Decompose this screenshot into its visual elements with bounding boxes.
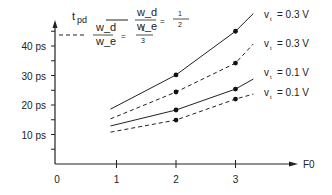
legend-solid-num: 1 bbox=[178, 10, 182, 17]
legend-dashed-num: 1 bbox=[141, 25, 145, 32]
legend-solid-equals: = bbox=[160, 17, 165, 26]
legend-dashed-we: w_e bbox=[95, 35, 116, 47]
x-tick-label: 0 bbox=[54, 174, 60, 185]
series-label-sub: t bbox=[270, 45, 272, 51]
x-tick-label: 3 bbox=[233, 174, 239, 185]
series-label-sub: t bbox=[270, 94, 272, 100]
series-label-text: v bbox=[264, 67, 269, 78]
series-label: vt= 0.3 V bbox=[264, 38, 309, 51]
data-point-marker bbox=[233, 87, 238, 92]
data-point-marker bbox=[233, 97, 238, 102]
y-ticks: 10 ps20 ps30 ps40 ps bbox=[22, 31, 55, 149]
y-tick-label: 10 ps bbox=[22, 130, 46, 141]
series-labels: vt= 0.3 Vvt= 0.3 Vvt= 0.1 Vvt= 0.1 V bbox=[264, 9, 309, 100]
x-tick-label: 1 bbox=[114, 174, 120, 185]
y-tick-label: 20 ps bbox=[22, 100, 46, 111]
legend-solid-den: 2 bbox=[178, 21, 182, 28]
series-label: vt= 0.1 V bbox=[264, 67, 309, 80]
series-label-text: v bbox=[264, 87, 269, 98]
series-label-sub: t bbox=[270, 16, 272, 22]
series-label-sub: t bbox=[270, 74, 272, 80]
series-label-value: = 0.3 V bbox=[277, 38, 309, 49]
data-point-marker bbox=[233, 61, 238, 66]
legend-dashed-equals: = bbox=[121, 32, 126, 41]
series-label: vt= 0.1 V bbox=[264, 87, 309, 100]
x-tick-label: 2 bbox=[173, 174, 179, 185]
data-point-marker bbox=[174, 118, 179, 123]
data-point-marker bbox=[174, 73, 179, 78]
data-point-marker bbox=[174, 90, 179, 95]
x-axis-label: F0 bbox=[303, 159, 315, 170]
series-label-text: v bbox=[264, 38, 269, 49]
y-axis-label-main: t bbox=[72, 10, 75, 22]
y-axis-label-sub: pd bbox=[77, 15, 87, 25]
series-label-text: v bbox=[264, 9, 269, 20]
y-axis-label: t pd bbox=[72, 10, 87, 25]
legend-dashed-wd: w_d bbox=[95, 21, 116, 33]
y-tick-label: 40 ps bbox=[22, 41, 46, 52]
series-line bbox=[111, 94, 254, 132]
x-axis-arrow-icon bbox=[289, 162, 298, 167]
series-label-value: = 0.1 V bbox=[277, 67, 309, 78]
series-label-value: = 0.3 V bbox=[277, 9, 309, 20]
data-point-marker bbox=[174, 108, 179, 113]
y-tick-label: 30 ps bbox=[22, 71, 46, 82]
legend-dashed-den: 3 bbox=[141, 37, 145, 44]
y-axis-arrow-icon bbox=[53, 20, 58, 28]
legend-solid: w_d w_e = 1 2 bbox=[106, 6, 189, 32]
series-label: vt= 0.3 V bbox=[264, 9, 309, 22]
series-label-value: = 0.1 V bbox=[277, 87, 309, 98]
series-line bbox=[111, 14, 254, 110]
legend-solid-we: w_e bbox=[136, 20, 157, 32]
data-point-marker bbox=[233, 29, 238, 34]
series-line bbox=[111, 79, 254, 126]
series-lines bbox=[111, 14, 254, 133]
legend-solid-wd: w_d bbox=[136, 6, 157, 18]
chart: 10 ps20 ps30 ps40 ps 0123 vt= 0.3 Vvt= 0… bbox=[0, 0, 332, 195]
